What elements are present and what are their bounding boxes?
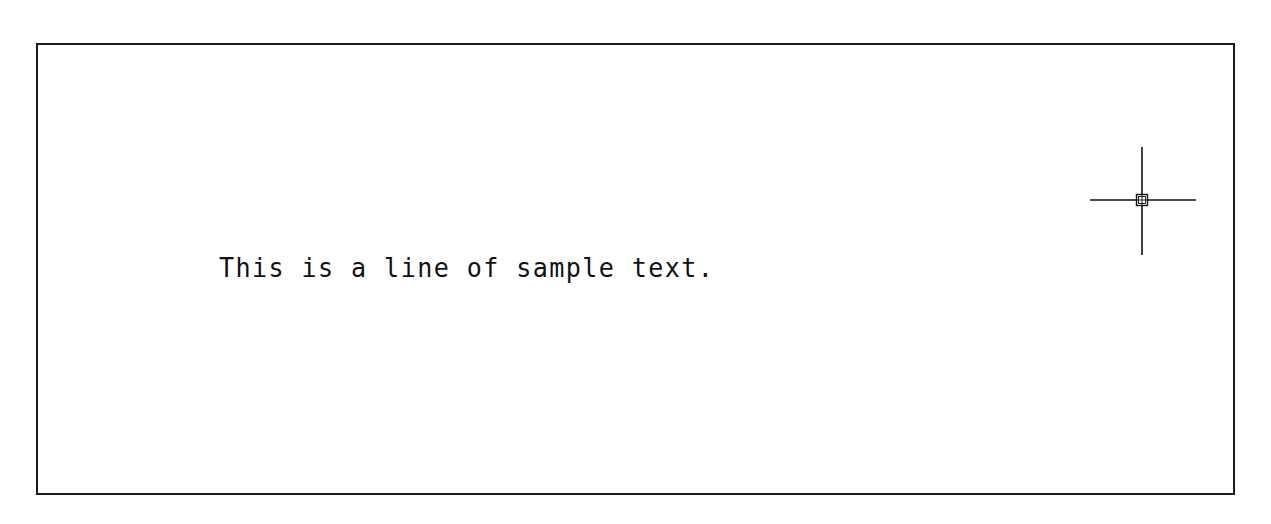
sample-text-object[interactable]: This is a line of sample text. bbox=[219, 252, 714, 283]
pickbox-icon bbox=[1137, 195, 1148, 206]
crosshair-cursor-icon bbox=[1089, 146, 1197, 256]
